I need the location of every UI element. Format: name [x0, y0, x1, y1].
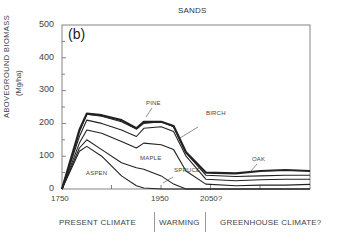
period-divider-1 [154, 212, 155, 232]
y-axis-ticks [62, 41, 66, 172]
plot-frame [62, 25, 310, 189]
label-pine: PINE [146, 100, 161, 106]
period-divider-2 [205, 212, 206, 232]
label-maple: MAPLE [140, 155, 161, 161]
period-present-climate: PRESENT CLIMATE [59, 218, 136, 227]
series-line-oak [62, 114, 310, 189]
label-birch: BIRCH [206, 110, 226, 116]
period-warming: WARMING [159, 218, 200, 227]
series-line-spruce [62, 140, 310, 189]
label-aspen: ASPEN [86, 170, 107, 176]
period-greenhouse-climate: GREENHOUSE CLIMATE? [220, 218, 321, 227]
label-spruce: SPRUCE [174, 167, 200, 173]
series-line-maple [62, 130, 310, 189]
series-lines [62, 114, 310, 189]
label-oak: OAK [252, 156, 265, 162]
chart-plot [0, 0, 342, 244]
